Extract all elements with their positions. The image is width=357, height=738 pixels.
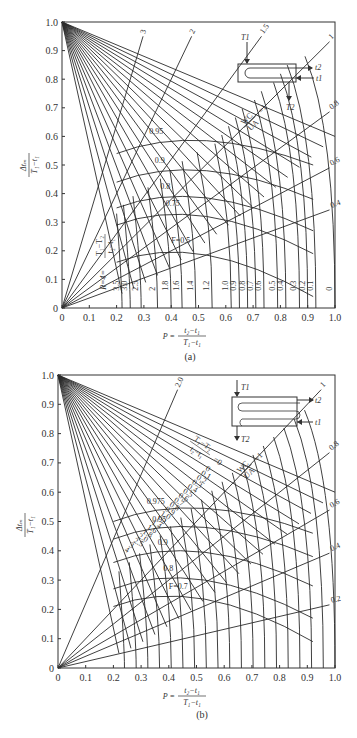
f-curve-label: 0.9 [158, 538, 168, 547]
svg-text:t1: t1 [315, 418, 321, 427]
wcua-line [62, 36, 262, 308]
wcua-line-label: 3 [138, 28, 148, 34]
x-tick-label: 0 [60, 312, 65, 323]
r-curve-label: 1.4 [186, 281, 195, 291]
fan-line-upper [62, 22, 193, 252]
y-tick-label: 0.7 [46, 102, 59, 113]
svg-text:t2: t2 [315, 63, 321, 72]
panel-a-x-axis-label: P = t₂−t₁ T₁−t₁ [162, 326, 206, 347]
r-curve-label: 0.6 [254, 281, 263, 291]
y-tick-label: 0.1 [42, 633, 55, 644]
svg-text:t2: t2 [315, 396, 321, 405]
y-tick-label: 0.2 [42, 604, 55, 615]
panel-b-chart: 2.010.80.60.40.2 00.10.20.30.40.50.60.70… [15, 370, 342, 722]
f-curve-label: 0.8 [160, 182, 170, 191]
wcua-line-label: 0.8 [327, 439, 340, 452]
r-curve-label: 4 [123, 545, 131, 555]
x-tick-label: 0.2 [110, 312, 123, 323]
f-curve-label: 0.75 [166, 199, 180, 208]
x-tick-label: 0.8 [274, 312, 287, 323]
wcua-line-label: 2.0 [173, 376, 185, 389]
y-tick-label: 0.3 [46, 217, 59, 228]
fan-line-upper [62, 22, 335, 136]
y-tick-label: 0.4 [46, 188, 59, 199]
y-tick-label: 0.9 [46, 45, 59, 56]
wcua-line-label: 2 [187, 28, 197, 35]
r-curve-label: 3.0 [120, 281, 129, 291]
svg-text:T₁−t₁: T₁−t₁ [26, 516, 35, 534]
svg-text:R=4=: R=4= [99, 270, 108, 291]
y-tick-label: 0.2 [46, 245, 59, 256]
svg-text:t₂−t₁: t₂−t₁ [106, 239, 115, 254]
fan-line-upper [58, 375, 203, 601]
wcua-line [58, 390, 321, 668]
svg-text:T1: T1 [241, 383, 249, 392]
fan-line-upper [58, 375, 191, 610]
f-curve-label: F=0.7 [169, 582, 188, 591]
r-curve [305, 56, 335, 308]
svg-text:t₂−t₁: t₂−t₁ [184, 326, 200, 335]
panel-a-curves: 321.510.80.60.4 [62, 22, 342, 308]
wcua-line-label: 0.8 [327, 98, 340, 111]
svg-text:P =: P = [162, 332, 175, 341]
r-curve [261, 91, 286, 308]
r-curve [229, 126, 248, 308]
f-curve-label: 0.95 [149, 127, 163, 136]
svg-text:T₁−t₁: T₁−t₁ [30, 156, 39, 174]
f-curve-label: 0.975 [147, 497, 165, 506]
x-tick-label: 0.1 [83, 312, 96, 323]
x-tick-label: 0.2 [107, 672, 120, 683]
x-tick-label: 0.7 [247, 312, 260, 323]
fan-line-upper [62, 22, 205, 243]
fan-line-upper [58, 375, 131, 648]
r-curve [160, 535, 171, 668]
y-tick-label: 0.4 [42, 545, 55, 556]
r-curve-label: 1.6 [172, 281, 181, 291]
r-curve [294, 419, 323, 668]
wcua-line-label: 1.5 [258, 22, 271, 35]
svg-text:t1: t1 [316, 74, 322, 83]
panel-a-chart: 321.510.80.60.4 00.10.20.30.40.50.60.70.… [19, 17, 342, 364]
x-tick-label: 0.6 [220, 312, 233, 323]
panel-a-annotations: 0.950.90.80.75F=0.53.53.02.521.81.61.41.… [112, 127, 334, 290]
r-curve [170, 527, 182, 668]
wcua-line [58, 510, 329, 668]
x-tick-label: 1.0 [329, 672, 342, 683]
x-tick-label: 0.9 [301, 312, 314, 323]
x-tick-label: 0.3 [138, 312, 151, 323]
x-tick-label: 0.3 [135, 672, 148, 683]
r-curve-label: 1.2 [202, 281, 211, 291]
x-tick-label: 0.4 [163, 672, 176, 683]
svg-text:T1: T1 [241, 33, 249, 42]
panel-a-caption: (a) [184, 351, 195, 363]
r-curve [243, 464, 265, 668]
x-tick-label: 0.5 [190, 672, 203, 683]
f-curve-label: 0.8 [163, 564, 173, 573]
x-tick-label: 0.4 [165, 312, 178, 323]
x-tick-label: 0.9 [301, 672, 314, 683]
y-tick-label: 0.7 [42, 457, 55, 468]
panel-b-exchanger-schematic: T1 T2 t2 t1 [232, 380, 321, 444]
r-curve-label: 1.8 [161, 281, 170, 291]
panel-a-wcua-label: WC UA =1 [238, 100, 272, 134]
r-curve [201, 500, 218, 668]
panel-b-caption: (b) [196, 709, 208, 721]
r-curve [287, 65, 316, 308]
x-tick-label: 0.7 [246, 672, 259, 683]
x-tick-label: 0.5 [192, 312, 205, 323]
y-tick-label: 0.6 [46, 131, 59, 142]
r-curve [140, 553, 148, 668]
y-tick-label: 0.5 [42, 516, 55, 527]
r-curve-label: 2.5 [131, 281, 140, 291]
svg-text:Δtₘ: Δtₘ [19, 159, 28, 172]
panel-a-y-axis-label: Δtₘ T₁−t₁ [19, 153, 39, 177]
y-tick-label: 0.1 [46, 274, 59, 285]
y-tick-label: 0.9 [42, 399, 55, 410]
x-tick-label: 0.1 [79, 672, 92, 683]
x-tick-label: 0 [56, 672, 61, 683]
x-tick-label: 0.6 [218, 672, 231, 683]
svg-text:T2: T2 [286, 103, 294, 112]
r-curve-label: 0.1 [306, 281, 315, 291]
svg-text:T2: T2 [241, 435, 249, 444]
r-curve-label: 0 [325, 287, 334, 291]
